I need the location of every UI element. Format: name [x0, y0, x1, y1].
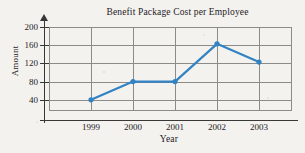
gridline-horizontal-120	[49, 63, 292, 64]
chart-figure: Benefit Package Cost per Employee Amount…	[0, 0, 305, 153]
gridline-vertical-1999	[91, 27, 92, 111]
plot-area	[49, 27, 292, 111]
x-tick-label-2001: 2001	[155, 122, 195, 132]
x-tick-label-2003: 2003	[239, 122, 279, 132]
gridline-vertical-2002	[217, 27, 218, 111]
y-tick-mark-200	[40, 27, 49, 28]
x-tick-label-2002: 2002	[197, 122, 237, 132]
y-axis-line	[44, 19, 45, 123]
y-tick-label-120: 120	[12, 59, 38, 68]
y-tick-mark-40	[40, 100, 49, 101]
y-tick-label-80: 80	[12, 78, 38, 87]
y-tick-mark-160	[40, 45, 49, 46]
y-tick-label-160: 160	[12, 41, 38, 50]
gridline-vertical-2003	[259, 27, 260, 111]
chart-title: Benefit Package Cost per Employee	[60, 7, 295, 17]
gridline-horizontal-40	[49, 100, 292, 101]
x-axis-title: Year	[45, 134, 293, 144]
gridline-horizontal-160	[49, 45, 292, 46]
gridline-horizontal-200	[49, 27, 292, 28]
gridline-vertical-2000	[133, 27, 134, 111]
y-tick-mark-80	[40, 82, 49, 83]
plot-frame	[49, 27, 292, 111]
x-axis-line	[40, 120, 298, 121]
gridline-vertical-2001	[175, 27, 176, 111]
gridline-horizontal-80	[49, 82, 292, 83]
y-tick-label-40: 40	[12, 96, 38, 105]
y-tick-label-200: 200	[12, 23, 38, 32]
y-tick-label-group: 200 160 120 80 40	[10, 0, 38, 153]
y-tick-mark-120	[40, 63, 49, 64]
x-tick-label-2000: 2000	[113, 122, 153, 132]
x-tick-label-1999: 1999	[71, 122, 111, 132]
